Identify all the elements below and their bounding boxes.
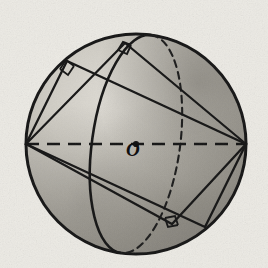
center-label-o: O: [126, 140, 140, 159]
geometry-figure: [0, 0, 268, 268]
figure-canvas: O: [0, 0, 268, 268]
overlay-grain: [0, 0, 268, 268]
